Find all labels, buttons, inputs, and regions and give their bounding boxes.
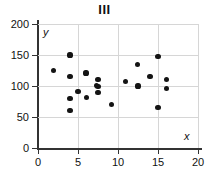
plot-area xyxy=(38,24,198,148)
gridline-horizontal xyxy=(38,86,198,87)
x-axis-line xyxy=(37,148,202,150)
x-axis-tick-label: 20 xyxy=(186,157,209,168)
data-point xyxy=(84,95,89,100)
x-axis-tick xyxy=(158,149,159,154)
y-axis-tick-label: 100 xyxy=(0,81,29,92)
y-axis-label: y xyxy=(43,27,49,38)
data-point xyxy=(164,77,169,82)
data-point xyxy=(95,84,100,89)
y-axis-tick-label: 0 xyxy=(0,143,29,154)
y-axis-tick xyxy=(32,148,37,149)
x-axis-tick-label: 5 xyxy=(66,157,90,168)
y-axis-tick-label: 150 xyxy=(0,50,29,61)
data-point xyxy=(135,83,140,88)
x-axis-tick-label: 15 xyxy=(146,157,170,168)
data-point xyxy=(147,74,152,79)
data-point xyxy=(51,68,56,73)
chart-title: III xyxy=(0,3,209,17)
gridline-horizontal xyxy=(38,117,198,118)
data-point xyxy=(67,74,72,79)
data-point xyxy=(75,89,80,94)
data-point xyxy=(109,102,114,107)
data-point xyxy=(135,62,140,67)
data-point xyxy=(95,77,100,82)
gridline-vertical xyxy=(198,24,199,148)
data-point xyxy=(155,54,160,59)
y-axis-tick xyxy=(32,117,37,118)
data-point xyxy=(164,86,169,91)
y-axis-tick xyxy=(32,86,37,87)
y-axis-tick xyxy=(32,24,37,25)
gridline-horizontal xyxy=(38,24,198,25)
data-point xyxy=(67,96,72,101)
data-point xyxy=(95,90,100,95)
scatter-chart: III y x 05010015020005101520 xyxy=(0,0,209,180)
data-point xyxy=(155,105,160,110)
y-axis-tick-label: 50 xyxy=(0,112,29,123)
x-axis-tick xyxy=(78,149,79,154)
gridline-horizontal xyxy=(38,55,198,56)
x-axis-tick xyxy=(38,149,39,154)
x-axis-tick xyxy=(118,149,119,154)
y-axis-tick-label: 200 xyxy=(0,19,29,30)
x-axis-tick xyxy=(198,149,199,154)
data-point xyxy=(67,108,72,113)
data-point xyxy=(123,79,128,84)
x-axis-label: x xyxy=(184,131,190,142)
x-axis-tick-label: 0 xyxy=(26,157,50,168)
x-axis-tick-label: 10 xyxy=(106,157,130,168)
data-point xyxy=(67,52,72,57)
data-point xyxy=(83,70,88,75)
y-axis-tick xyxy=(32,55,37,56)
